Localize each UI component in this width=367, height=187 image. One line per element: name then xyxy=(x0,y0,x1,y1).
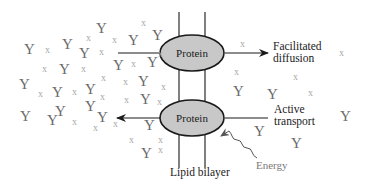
svg-text:Y: Y xyxy=(141,145,152,161)
facilitated-label-1: Facilitated xyxy=(273,40,322,52)
energy-label: Energy xyxy=(256,159,288,171)
svg-text:x: x xyxy=(234,66,239,77)
svg-text:x: x xyxy=(240,38,245,49)
svg-text:x: x xyxy=(293,71,298,82)
svg-text:Y: Y xyxy=(152,27,163,43)
svg-text:x: x xyxy=(100,91,105,102)
svg-text:x: x xyxy=(38,88,43,99)
svg-text:Y: Y xyxy=(233,83,244,99)
svg-text:x: x xyxy=(131,58,136,69)
svg-text:x: x xyxy=(308,87,313,98)
svg-text:x: x xyxy=(81,63,86,74)
svg-text:x: x xyxy=(339,47,344,58)
svg-text:Y: Y xyxy=(97,109,108,125)
svg-text:x: x xyxy=(101,72,106,83)
svg-text:Y: Y xyxy=(254,123,265,139)
svg-text:x: x xyxy=(113,118,118,129)
protein-facilitated: Protein xyxy=(160,35,224,71)
svg-text:x: x xyxy=(158,48,163,59)
protein-active: Protein xyxy=(160,100,224,136)
svg-text:Y: Y xyxy=(20,108,31,124)
svg-text:Y: Y xyxy=(291,135,302,151)
svg-text:Y: Y xyxy=(79,45,90,61)
svg-text:x: x xyxy=(123,76,128,87)
svg-text:x: x xyxy=(72,116,77,127)
svg-text:x: x xyxy=(124,94,129,105)
svg-text:x: x xyxy=(129,134,134,145)
active-label-1: Active xyxy=(274,103,305,115)
svg-text:x: x xyxy=(99,46,104,57)
svg-text:Y: Y xyxy=(113,57,124,73)
svg-text:x: x xyxy=(157,96,162,107)
svg-text:x: x xyxy=(42,63,47,74)
svg-text:Y: Y xyxy=(85,81,96,97)
protein-label: Protein xyxy=(176,47,208,59)
svg-text:Y: Y xyxy=(59,61,70,77)
svg-text:Y: Y xyxy=(24,41,35,57)
svg-text:Y: Y xyxy=(340,108,351,124)
svg-text:Y: Y xyxy=(85,98,96,114)
facilitated-label-2: diffusion xyxy=(273,52,315,64)
svg-text:x: x xyxy=(112,34,117,45)
svg-text:x: x xyxy=(86,32,91,43)
svg-text:Y: Y xyxy=(144,117,155,133)
membrane-transport-diagram: Protein Protein Facilitated diffusion Ac… xyxy=(0,0,367,187)
protein-label: Protein xyxy=(176,112,208,124)
svg-text:x: x xyxy=(93,122,98,133)
svg-text:Y: Y xyxy=(128,32,139,48)
svg-text:Y: Y xyxy=(62,36,73,52)
svg-text:x: x xyxy=(141,17,146,28)
svg-text:x: x xyxy=(72,86,77,97)
lipid-bilayer-label: Lipid bilayer xyxy=(170,166,230,179)
svg-text:Y: Y xyxy=(140,91,151,107)
svg-text:x: x xyxy=(45,44,50,55)
svg-text:x: x xyxy=(161,81,166,92)
svg-text:Y: Y xyxy=(96,20,107,36)
active-label-2: transport xyxy=(274,115,316,128)
svg-text:Y: Y xyxy=(147,54,158,70)
svg-text:Y: Y xyxy=(138,73,149,89)
svg-text:Y: Y xyxy=(47,112,58,128)
energy-arrow xyxy=(221,131,257,158)
svg-text:x: x xyxy=(158,144,163,155)
svg-text:Y: Y xyxy=(19,76,30,92)
svg-text:Y: Y xyxy=(52,84,63,100)
svg-text:Y: Y xyxy=(267,86,278,102)
